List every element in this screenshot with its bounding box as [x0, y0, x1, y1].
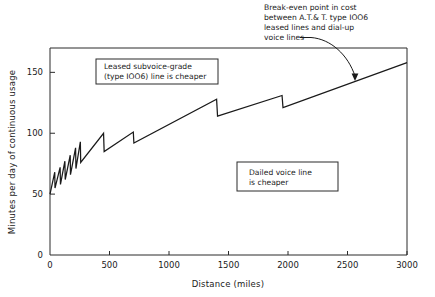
annotation-leased-region: Leased subvoice-grade (type IOO6) line i… [96, 59, 218, 84]
breakeven-line-chart: 050010001500200025003000 050100150 Dista… [0, 0, 435, 297]
annotation-breakeven-line-1: Break-even point in cost [264, 3, 357, 12]
annotation-dialed-region-line-1: Dailed voice line [249, 168, 312, 177]
annotation-breakeven-line-3: leased lines and dial-up [264, 23, 354, 32]
annotation-dialed-region: Dailed voice line is cheaper [237, 162, 338, 191]
chart-background [0, 0, 435, 297]
x-tick-label-3000: 3000 [396, 260, 418, 270]
annotation-leased-region-line-2: (type IOO6) line is cheaper [104, 72, 207, 81]
annotation-leased-region-line-1: Leased subvoice-grade [104, 62, 192, 71]
chart-figure: 050010001500200025003000 050100150 Dista… [0, 0, 435, 297]
y-tick-label-150: 150 [27, 67, 43, 77]
x-tick-label-2500: 2500 [337, 260, 359, 270]
y-axis-title: Minutes per day of continuous usage [7, 70, 17, 234]
y-tick-label-100: 100 [27, 128, 43, 138]
x-tick-label-0: 0 [47, 260, 52, 270]
x-tick-label-500: 500 [101, 260, 117, 270]
x-tick-label-1500: 1500 [218, 260, 240, 270]
annotation-breakeven-line-2: between A.T.& T. type IOO6 [264, 13, 368, 22]
x-tick-label-2000: 2000 [277, 260, 299, 270]
x-axis-title: Distance (miles) [192, 279, 264, 289]
annotation-breakeven-line-4: voice lines [264, 33, 304, 42]
y-tick-label-50: 50 [32, 189, 43, 199]
y-tick-label-0: 0 [38, 250, 43, 260]
annotation-dialed-region-line-2: is cheaper [249, 178, 289, 187]
x-tick-label-1000: 1000 [158, 260, 180, 270]
